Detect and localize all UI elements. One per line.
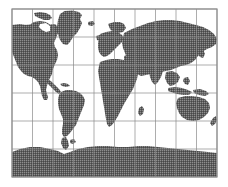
world-map-svg xyxy=(0,0,228,187)
world-map-figure: World map xyxy=(0,0,228,187)
